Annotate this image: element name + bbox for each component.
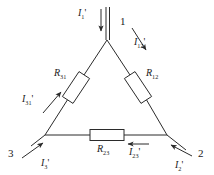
current-i12-prime: ' — [144, 36, 146, 47]
resistor-r12-subscript: 12 — [152, 73, 158, 80]
wire-right-lower — [146, 99, 167, 135]
node-label-3: 3 — [8, 148, 14, 159]
current-i1-prime: ' — [84, 7, 86, 18]
current-i3-prime: ' — [47, 157, 49, 168]
node-label-2: 2 — [198, 148, 204, 159]
wire-left-upper — [84, 40, 107, 75]
current-label-i31: I31' — [22, 94, 33, 106]
terminal-lead-3 — [31, 135, 45, 146]
resistor-label-r31: R31 — [54, 68, 66, 80]
resistor-r23-subscript: 23 — [103, 149, 109, 156]
wire-left-lower — [45, 99, 68, 135]
current-i2-prime: ' — [181, 159, 183, 170]
wire-right-upper — [107, 40, 130, 75]
current-i23-prime: ' — [139, 146, 141, 157]
resistor-label-r12: R12 — [146, 68, 158, 80]
current-label-i2: I2' — [175, 160, 183, 172]
current-label-i12: I12' — [134, 37, 145, 49]
node-label-1: 1 — [120, 16, 126, 27]
current-i31-prime: ' — [32, 93, 34, 104]
resistor-label-r23: R23 — [97, 144, 109, 156]
current-label-i23: I23' — [129, 147, 140, 159]
current-arrow-i31 — [43, 92, 61, 113]
resistor-r31-body — [62, 72, 89, 104]
circuit-diagram-canvas: 1 2 3 R31 R12 R23 I1' I2' I3' I12' I23' … — [0, 0, 214, 175]
current-label-i1: I1' — [78, 8, 86, 20]
current-label-i3: I3' — [41, 158, 49, 170]
resistor-r23-body — [90, 130, 124, 141]
resistor-r31-subscript: 31 — [60, 73, 66, 80]
